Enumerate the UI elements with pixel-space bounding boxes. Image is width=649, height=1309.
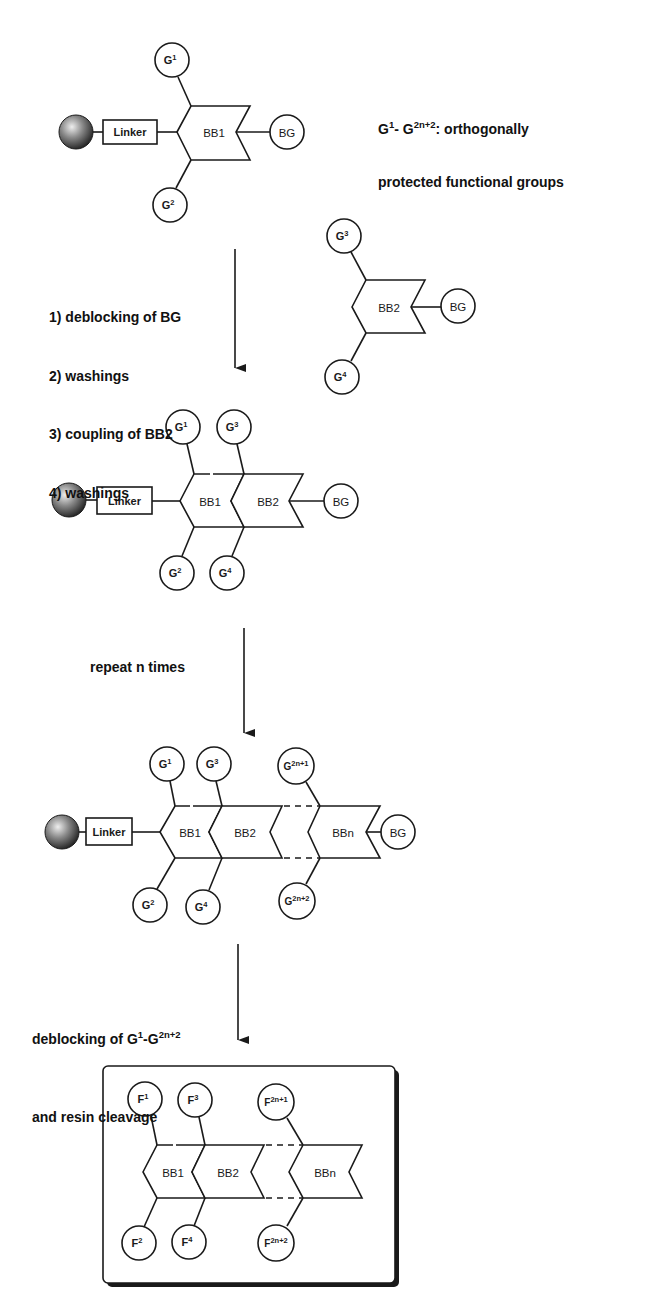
legend-note: G1- G2n+2: orthogonally protected functi… [378,86,564,209]
step-3-line-2: and resin cleavage [32,1104,181,1130]
step-2-repeat: repeat n times [90,659,185,677]
bg-label: BG [333,496,350,508]
linker-label: Linker [92,826,126,838]
bb2-label: BB2 [234,827,256,839]
step-3-line-1: deblocking of G1-G2n+2 [32,1026,181,1052]
bb2-label: BB2 [217,1167,239,1179]
step-3-conditions: deblocking of G1-G2n+2 and resin cleavag… [32,974,181,1156]
resin-bead-icon [59,115,93,149]
bg-label: BG [279,127,296,139]
bbn-label: BBn [332,827,354,839]
stage-1-construct: Linker BB1 BG G1 G2 [59,43,304,222]
bbn-label: BBn [314,1167,336,1179]
resin-bead-icon [45,815,79,849]
g2-label: G [169,567,178,579]
step-1-conditions: 1) deblocking of BG 2) washings 3) coupl… [49,269,181,523]
g3-label: G [336,230,345,242]
legend-line-2: protected functional groups [378,174,564,192]
step-1-line-3: 3) coupling of BB2 [49,425,181,445]
g2-label: G [162,199,171,211]
g4-label: G [334,371,343,383]
step-1-line-4: 4) washings [49,484,181,504]
step-1-line-1: 1) deblocking of BG [49,308,181,328]
g3-label: G [226,421,235,433]
bb2-label: BB2 [257,496,279,508]
free-bb2-building-block: BB2 BG G3 G4 [325,219,475,394]
bb1-label: BB1 [179,827,201,839]
bg-label: BG [390,827,407,839]
g3-label: G [206,758,215,770]
g4-label: G [195,901,204,913]
bb1-label: BB1 [203,127,225,139]
g1-label: G [159,758,168,770]
g2-label: G [142,899,151,911]
linker-label: Linker [113,126,147,138]
bb1-label: BB1 [162,1167,184,1179]
step-1-line-2: 2) washings [49,367,181,387]
bb2-label: BB2 [378,302,400,314]
bb1-label: BB1 [199,496,221,508]
bg-label: BG [450,301,467,313]
g4-label: G [219,567,228,579]
g1-label: G [164,54,173,66]
stage-3-construct: Linker BB1 BB2 BBn BG G1 G3 G2n+1 G2 G4 … [45,747,415,924]
legend-line-1: G1- G2n+2: orthogonally [378,121,564,139]
